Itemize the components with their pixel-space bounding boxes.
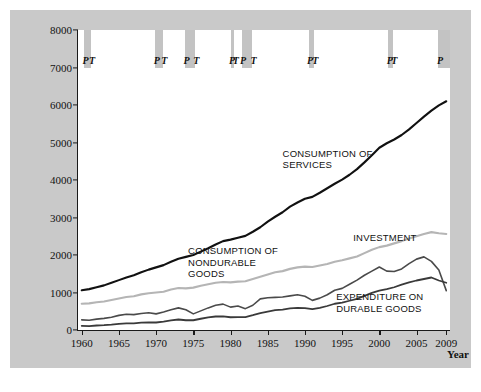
y-tick-label: 5000 — [32, 137, 72, 149]
y-tick-mark — [73, 217, 78, 218]
series-label: CONSUMPTION OF NONDURABLE GOODS — [188, 245, 278, 280]
peak-mark: P — [240, 55, 246, 66]
trough-mark: T — [89, 55, 95, 66]
y-tick-label: 6000 — [32, 99, 72, 111]
peak-mark: P — [82, 55, 88, 66]
x-tick-mark — [379, 330, 380, 335]
x-tick-mark — [305, 330, 306, 335]
y-tick-mark — [73, 292, 78, 293]
peak-mark: P — [184, 55, 190, 66]
x-tick-mark — [193, 330, 194, 335]
trough-mark: T — [233, 55, 239, 66]
y-tick-mark — [73, 254, 78, 255]
plot-canvas: CONSUMPTION OF SERVICESCONSUMPTION OF NO… — [77, 30, 450, 331]
x-tick-mark — [231, 330, 232, 335]
y-tick-mark — [73, 329, 78, 330]
x-tick-mark — [82, 330, 83, 335]
series-label: INVESTMENT — [353, 232, 416, 244]
y-tick-label: 0 — [32, 324, 72, 336]
peak-mark: P — [437, 55, 443, 66]
series-label: CONSUMPTION OF SERVICES — [283, 148, 373, 171]
series-lines — [78, 30, 450, 330]
y-tick-label: 4000 — [32, 174, 72, 186]
series-label: EXPENDITURE ON DURABLE GOODS — [336, 291, 423, 314]
x-tick-mark — [417, 330, 418, 335]
y-tick-mark — [73, 142, 78, 143]
trough-mark: T — [161, 55, 167, 66]
figure-panel: Consumption and investment (billions of … — [10, 10, 471, 368]
y-tick-label: 1000 — [32, 287, 72, 299]
trough-mark: T — [251, 55, 257, 66]
x-tick-label: 2009 — [424, 337, 468, 349]
peak-mark: P — [154, 55, 160, 66]
x-tick-mark — [342, 330, 343, 335]
x-axis-label: Year — [447, 348, 469, 360]
y-tick-label: 8000 — [32, 24, 72, 36]
y-tick-mark — [73, 29, 78, 30]
y-tick-mark — [73, 104, 78, 105]
y-tick-mark — [73, 179, 78, 180]
x-tick-mark — [446, 330, 447, 335]
y-tick-label: 2000 — [32, 249, 72, 261]
x-tick-mark — [119, 330, 120, 335]
trough-mark: T — [312, 55, 318, 66]
trough-mark: T — [391, 55, 397, 66]
y-tick-label: 7000 — [32, 62, 72, 74]
x-tick-mark — [268, 330, 269, 335]
x-tick-mark — [156, 330, 157, 335]
y-tick-label: 3000 — [32, 212, 72, 224]
trough-mark: T — [193, 55, 199, 66]
y-tick-mark — [73, 67, 78, 68]
